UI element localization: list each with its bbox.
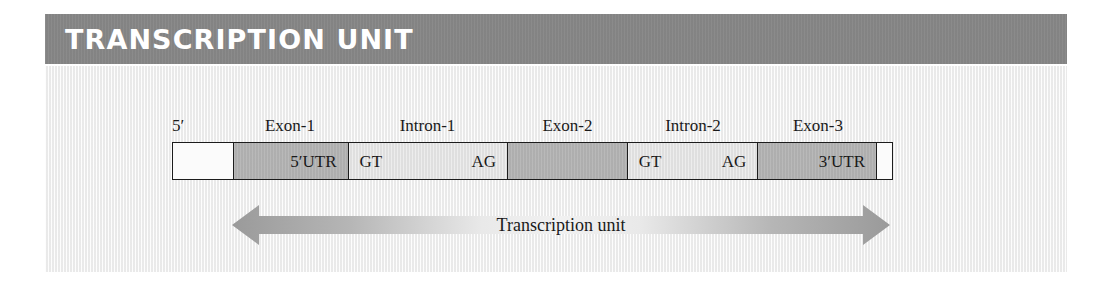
double-headed-arrow-icon (232, 200, 890, 250)
figure-title: TRANSCRIPTION UNIT (65, 26, 414, 53)
figure-header-bar: TRANSCRIPTION UNIT (45, 14, 1067, 64)
intron-1-segment: GT AG (349, 143, 508, 179)
exon-1-segment: 5′UTR (233, 143, 349, 179)
intron-1-ag-label: AG (472, 153, 497, 170)
gene-structure-bar: 5′UTR GT AG GT AG 3′UTR (172, 142, 893, 180)
transcription-unit-figure: TRANSCRIPTION UNIT 5′ Exon-1 Intron-1 Ex… (0, 0, 1102, 298)
three-prime-utr-label: 3′UTR (819, 153, 865, 170)
intron-2-gt-label: GT (639, 153, 662, 170)
intron-2-label: Intron-2 (628, 117, 758, 134)
intron-2-segment: GT AG (628, 143, 758, 179)
five-prime-label: 5′ (172, 117, 184, 134)
intron-2-ag-label: AG (722, 153, 747, 170)
exon-1-label: Exon-1 (232, 117, 348, 134)
three-prime-flank-segment (877, 143, 892, 179)
five-prime-flank-segment (173, 143, 233, 179)
five-prime-utr-label: 5′UTR (290, 153, 336, 170)
intron-1-label: Intron-1 (348, 117, 507, 134)
exon-2-segment (507, 143, 628, 179)
exon-3-label: Exon-3 (758, 117, 878, 134)
intron-1-gt-label: GT (360, 153, 383, 170)
exon-3-segment: 3′UTR (757, 143, 877, 179)
exon-2-label: Exon-2 (507, 117, 628, 134)
transcription-unit-arrow: Transcription unit (232, 200, 890, 250)
